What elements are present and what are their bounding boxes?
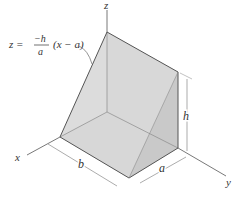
wedge-figure: z x y h b a z = −h a (x − a) xyxy=(0,0,244,207)
equation-numerator: −h xyxy=(34,33,46,44)
h-label: h xyxy=(183,109,189,123)
z-axis-label: z xyxy=(103,0,109,11)
b-label: b xyxy=(78,157,84,171)
equation-lhs: z = xyxy=(8,38,23,50)
equation-factor: (x − a) xyxy=(53,38,84,51)
h-extension-top xyxy=(180,73,192,79)
y-axis xyxy=(178,148,226,176)
equation-denominator: a xyxy=(38,46,43,57)
y-axis-label: y xyxy=(225,176,231,188)
x-axis xyxy=(27,137,60,155)
a-label: a xyxy=(159,161,165,175)
x-axis-label: x xyxy=(14,151,20,163)
